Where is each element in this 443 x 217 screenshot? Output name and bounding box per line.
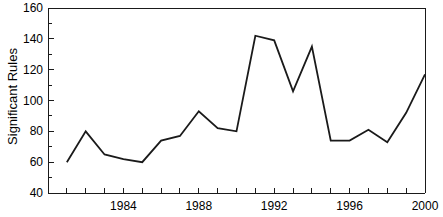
line-chart-plot: 40608010012014016019841988199219962000: [0, 0, 443, 217]
x-tick-label: 1984: [110, 199, 137, 213]
data-series-line: [67, 36, 425, 162]
x-tick-label: 2000: [412, 199, 439, 213]
y-tick-label: 160: [23, 1, 43, 15]
chart-tick-labels: 40608010012014016019841988199219962000: [23, 1, 439, 213]
y-tick-label: 100: [23, 94, 43, 108]
y-tick-label: 80: [30, 124, 44, 138]
x-tick-label: 1988: [185, 199, 212, 213]
y-tick-label: 140: [23, 32, 43, 46]
chart-axes: [48, 8, 425, 193]
y-tick-label: 60: [30, 155, 44, 169]
x-tick-label: 1996: [336, 199, 363, 213]
y-tick-label: 40: [30, 186, 44, 200]
chart-container: Significant Rules 4060801001201401601984…: [0, 0, 443, 217]
x-tick-label: 1992: [261, 199, 288, 213]
y-tick-label: 120: [23, 63, 43, 77]
